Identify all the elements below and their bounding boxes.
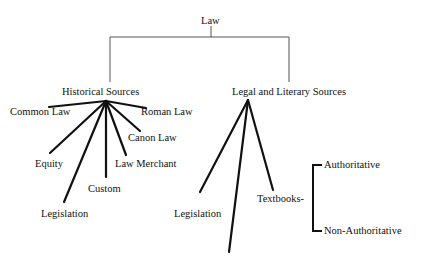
node-canon-law: Canon Law xyxy=(128,132,177,144)
node-legislation-historical: Legislation xyxy=(41,208,88,220)
node-law-merchant: Law Merchant xyxy=(115,158,177,170)
node-historical-sources: Historical Sources xyxy=(62,86,139,98)
root-node-law: Law xyxy=(201,15,220,27)
node-authoritative: Authoritative xyxy=(324,159,380,171)
legal-literary-fan xyxy=(200,100,273,252)
node-custom: Custom xyxy=(88,183,121,195)
node-equity: Equity xyxy=(35,158,63,170)
node-roman-law: Roman Law xyxy=(141,106,193,118)
root-connector xyxy=(110,26,289,82)
node-non-authoritative: Non-Authoritative xyxy=(324,225,402,237)
textbooks-bracket xyxy=(313,165,322,231)
node-legal-literary-sources: Legal and Literary Sources xyxy=(232,86,346,98)
node-textbooks: Textbooks- xyxy=(257,193,304,205)
diagram-lines xyxy=(0,0,421,261)
node-common-law: Common Law xyxy=(10,106,70,118)
node-legislation-legal: Legislation xyxy=(174,208,221,220)
